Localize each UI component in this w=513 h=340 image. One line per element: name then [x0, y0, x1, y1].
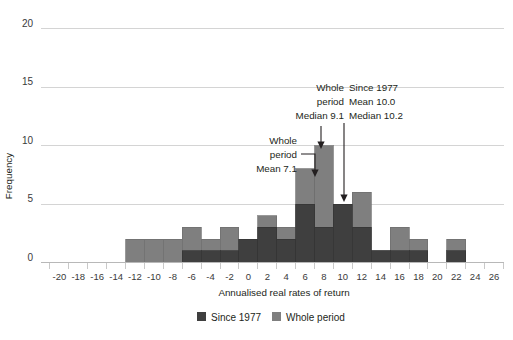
x-axis-tick-label: -12 — [128, 271, 142, 282]
x-axis-tick-label: 4 — [284, 271, 289, 282]
bar-since-1977 — [296, 204, 315, 263]
gridlines — [41, 29, 504, 205]
x-axis-tick-label: -6 — [187, 271, 195, 282]
x-axis-tick-label: 26 — [489, 271, 500, 282]
bar-since-1977 — [409, 251, 428, 263]
x-axis-tick-label: 6 — [302, 271, 307, 282]
x-axis-tick-label: -2 — [225, 271, 233, 282]
bar-since-1977 — [239, 239, 258, 262]
y-axis-tick-labels: 05101520 — [22, 18, 34, 263]
bar-since-1977 — [352, 227, 371, 262]
annotation-whole-period-median: Whole period Median 9.1 — [296, 82, 345, 149]
bar-since-1977 — [220, 251, 239, 263]
x-axis-tick-label: 12 — [356, 271, 367, 282]
x-axis-tick-label: -8 — [169, 271, 177, 282]
chart-canvas: 05101520 -20-18-16-14-12-10-8-6-4-202468… — [0, 0, 513, 340]
annotation-line: period — [317, 96, 344, 107]
legend-label-since-1977: Since 1977 — [211, 312, 261, 323]
bar-since-1977 — [182, 251, 201, 263]
x-axis-tick-label: -14 — [109, 271, 123, 282]
x-axis-tick-label: 0 — [246, 271, 251, 282]
x-axis-tick-label: 18 — [413, 271, 424, 282]
annotation-line: period — [270, 149, 297, 160]
bar-whole-period — [163, 239, 182, 262]
y-axis-tick-label: 20 — [22, 18, 34, 29]
bar-since-1977 — [277, 239, 296, 262]
annotation-line: Median 10.2 — [349, 110, 403, 121]
annotation-since-1977-stats: Since 1977 Mean 10.0 Median 10.2 — [340, 82, 403, 202]
bar-since-1977 — [201, 251, 220, 263]
y-axis-tick-label: 10 — [22, 135, 34, 146]
legend-swatch-whole-period — [272, 312, 281, 321]
bar-since-1977 — [315, 227, 334, 262]
x-axis-tick-label: -16 — [90, 271, 104, 282]
bar-whole-period — [144, 239, 163, 262]
y-axis-title: Frequency — [3, 153, 14, 199]
x-axis — [41, 263, 504, 269]
x-axis-tick-label: -20 — [53, 271, 67, 282]
annotation-line: Mean 10.0 — [349, 96, 396, 107]
y-axis-tick-label: 0 — [27, 252, 33, 263]
bar-since-1977 — [371, 251, 390, 263]
x-axis-tick-label: -4 — [206, 271, 214, 282]
x-axis-tick-label: 24 — [470, 271, 481, 282]
annotation-line: Since 1977 — [349, 82, 398, 93]
annotation-line: Whole — [316, 82, 344, 93]
legend-label-whole-period: Whole period — [286, 312, 345, 323]
annotation-line: Whole — [269, 135, 297, 146]
bar-since-1977 — [258, 227, 277, 262]
x-axis-tick-label: 16 — [394, 271, 405, 282]
x-axis-tick-label: 22 — [451, 271, 462, 282]
annotation-arrowhead — [340, 195, 347, 203]
y-axis-tick-label: 5 — [27, 193, 33, 204]
x-axis-tick-label: -10 — [147, 271, 161, 282]
annotation-line: Mean 7.1 — [256, 163, 297, 174]
legend-swatch-since-1977 — [197, 312, 206, 321]
bar-whole-period — [126, 239, 145, 262]
histogram-chart: 05101520 -20-18-16-14-12-10-8-6-4-202468… — [0, 0, 513, 340]
annotation-line: Median 9.1 — [296, 110, 344, 121]
chart-legend: Since 1977 Whole period — [197, 312, 345, 323]
y-axis-tick-label: 15 — [22, 76, 34, 87]
x-axis-tick-labels: -20-18-16-14-12-10-8-6-4-202468101214161… — [53, 271, 500, 282]
x-axis-tick-label: -18 — [71, 271, 85, 282]
x-axis-tick-label: 20 — [432, 271, 443, 282]
x-axis-title: Annualised real rates of return — [218, 287, 349, 298]
x-axis-tick-label: 10 — [338, 271, 349, 282]
x-axis-tick-label: 14 — [375, 271, 386, 282]
x-axis-tick-label: 2 — [265, 271, 270, 282]
bar-since-1977 — [447, 251, 466, 263]
annotation-leader-line — [301, 154, 315, 170]
bar-since-1977 — [390, 251, 409, 263]
x-axis-tick-label: 8 — [321, 271, 326, 282]
bar-since-1977 — [333, 204, 352, 263]
